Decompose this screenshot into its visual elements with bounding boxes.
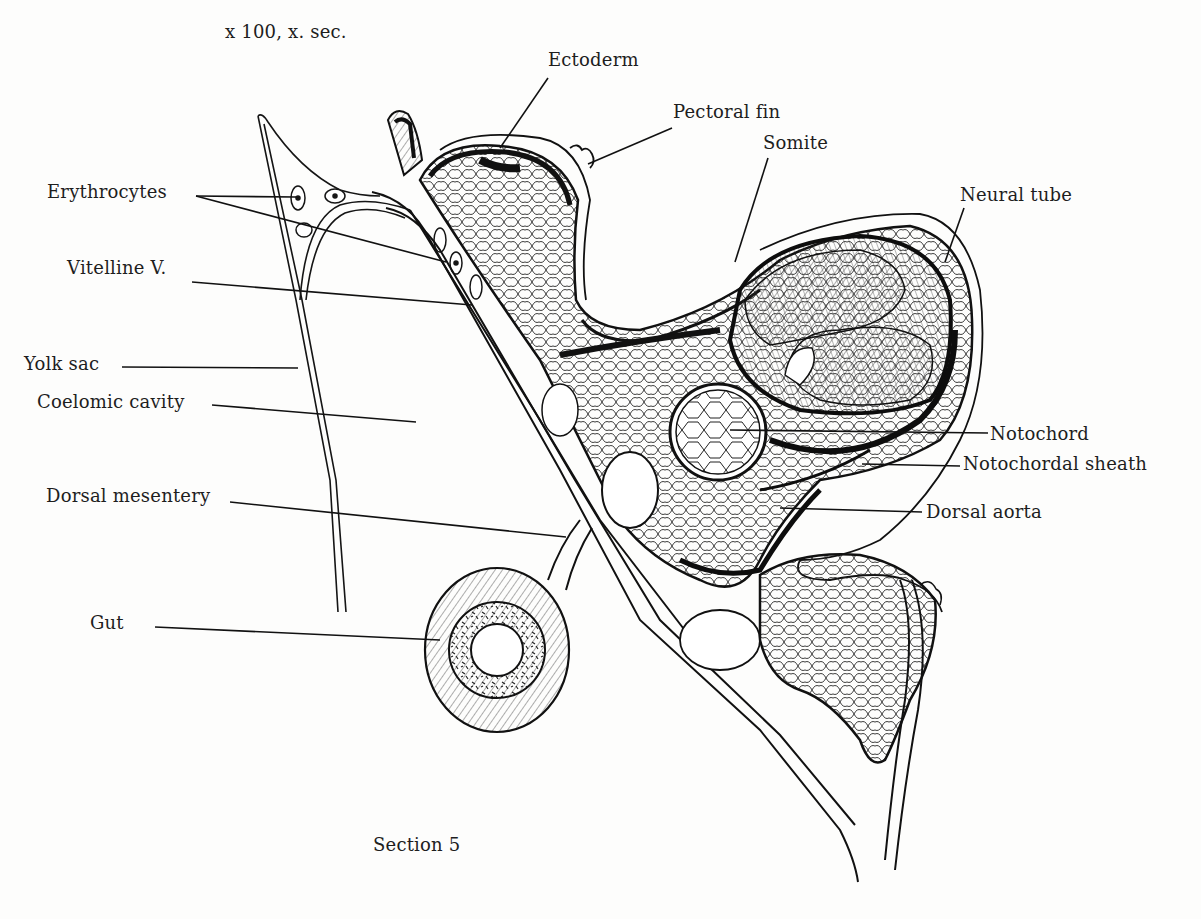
label-yolk-sac: Yolk sac — [24, 354, 99, 374]
label-ectoderm: Ectoderm — [548, 50, 639, 70]
magnification-note: x 100, x. sec. — [225, 22, 347, 42]
label-neural-tube: Neural tube — [960, 185, 1072, 205]
label-coelomic-cavity: Coelomic cavity — [37, 392, 185, 412]
label-vitelline-vein: Vitelline V. — [67, 258, 167, 278]
label-pectoral-fin: Pectoral fin — [673, 102, 780, 122]
label-dorsal-aorta: Dorsal aorta — [926, 502, 1042, 522]
dorsal-mesentery-stalk — [548, 520, 592, 590]
label-somite: Somite — [763, 133, 828, 153]
label-notochordal-sheath: Notochordal sheath — [963, 454, 1147, 474]
neural-tube-shape — [730, 236, 951, 413]
pectoral-fin-bud — [388, 111, 422, 175]
figure-caption: Section 5 — [373, 835, 460, 855]
label-notochord: Notochord — [990, 424, 1089, 444]
notochord-shape — [670, 384, 766, 480]
label-dorsal-mesentery: Dorsal mesentery — [46, 486, 210, 506]
gut-shape — [425, 568, 569, 732]
label-gut: Gut — [90, 613, 124, 633]
ventral-mass — [760, 554, 941, 870]
figure-canvas: x 100, x. sec. Section 5 Ectoderm Pector… — [0, 0, 1201, 919]
label-erythrocytes: Erythrocytes — [47, 182, 167, 202]
